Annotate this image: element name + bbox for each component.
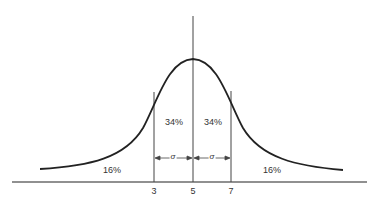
- tick-label-3: 3: [151, 187, 156, 196]
- right-center-percent: 34%: [204, 118, 222, 127]
- tick-label-7: 7: [228, 187, 233, 196]
- left-center-percent: 34%: [165, 118, 183, 127]
- tick-label-5: 5: [190, 187, 195, 196]
- sigma-label-right: σ: [209, 153, 216, 161]
- right-tail-percent: 16%: [263, 166, 281, 175]
- bell-curve-figure: [0, 0, 380, 203]
- left-tail-percent: 16%: [103, 166, 121, 175]
- sigma-label-left: σ: [170, 153, 177, 161]
- normal-curve: [40, 59, 343, 170]
